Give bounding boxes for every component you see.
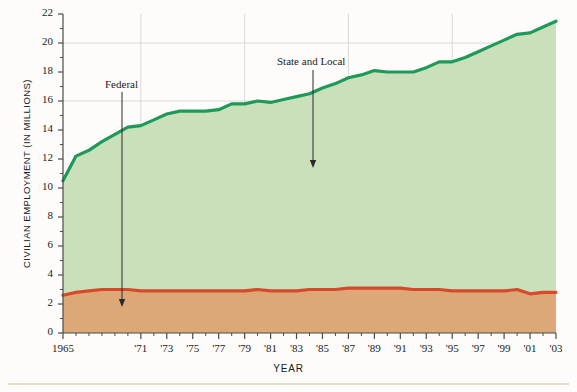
- y-tick-label: 14: [25, 122, 53, 134]
- y-tick-label: 18: [25, 64, 53, 76]
- y-tick-label: 4: [25, 267, 53, 279]
- annotation-label-state-and-local: State and Local: [277, 55, 345, 67]
- annotation-label-federal: Federal: [105, 78, 138, 90]
- y-tick-label: 10: [25, 180, 53, 192]
- y-axis-title: CIVILIAN EMPLOYMENT (IN MILLIONS): [21, 44, 32, 304]
- y-tick-label: 16: [25, 93, 53, 105]
- y-tick-label: 22: [25, 6, 53, 18]
- y-tick-label: 2: [25, 296, 53, 308]
- area-fill-federal: [63, 288, 556, 333]
- x-tick-label: '03: [539, 342, 573, 354]
- y-tick-label: 6: [25, 238, 53, 250]
- y-tick-label: 8: [25, 209, 53, 221]
- y-tick-label: 20: [25, 35, 53, 47]
- y-tick-label: 0: [25, 325, 53, 337]
- y-tick-label: 12: [25, 151, 53, 163]
- x-axis-title: YEAR: [0, 363, 577, 374]
- x-tick-label: 1965: [46, 342, 80, 354]
- chart-figure: CIVILIAN EMPLOYMENT (IN MILLIONS) YEAR 0…: [0, 0, 577, 392]
- bottom-divider-rule: [8, 383, 569, 385]
- area-fill-state-and-local: [63, 21, 556, 333]
